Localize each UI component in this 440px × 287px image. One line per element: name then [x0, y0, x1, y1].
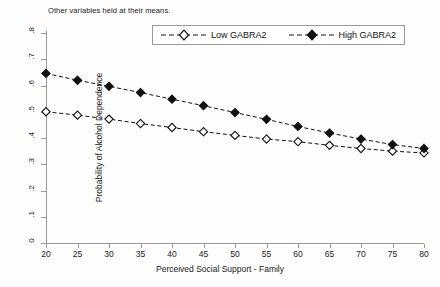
data-point-high: [388, 140, 396, 148]
data-point-low: [325, 141, 333, 149]
data-point-low: [357, 144, 365, 152]
data-point-low: [168, 123, 176, 131]
data-point-high: [105, 82, 113, 90]
data-point-high: [42, 69, 50, 77]
open-diamond-icon: [161, 29, 207, 41]
data-point-high: [231, 108, 239, 116]
data-point-high: [325, 129, 333, 137]
data-point-high: [262, 115, 270, 123]
data-point-low: [136, 119, 144, 127]
data-point-low: [73, 111, 81, 119]
data-point-low: [105, 115, 113, 123]
chart-legend: Low GABRA2 High GABRA2: [152, 25, 405, 45]
data-point-high: [294, 122, 302, 130]
data-point-high: [357, 135, 365, 143]
legend-label-low: Low GABRA2: [211, 30, 267, 40]
data-point-low: [199, 128, 207, 136]
legend-item-high[interactable]: High GABRA2: [289, 29, 397, 41]
legend-item-low[interactable]: Low GABRA2: [161, 29, 267, 41]
data-point-high: [136, 88, 144, 96]
data-point-high: [199, 102, 207, 110]
chart-figure: Other variables held at their means. 0.1…: [0, 0, 440, 287]
legend-label-high: High GABRA2: [339, 30, 397, 40]
data-point-low: [42, 108, 50, 116]
data-point-high: [73, 76, 81, 84]
data-point-low: [294, 138, 302, 146]
data-point-low: [262, 135, 270, 143]
filled-diamond-icon: [289, 29, 335, 41]
data-point-high: [168, 95, 176, 103]
data-point-low: [231, 131, 239, 139]
